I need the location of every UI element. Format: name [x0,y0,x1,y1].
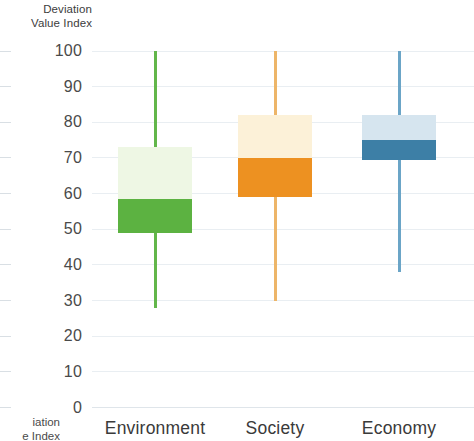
y-tick-label-90: 90 [36,79,82,95]
axis-edge-tick-10 [0,371,11,372]
y-tick-label-10: 10 [36,364,82,380]
whisker-line-economy [398,51,401,272]
y-tick-label-80: 80 [36,114,82,130]
y-tick-label-100: 100 [36,43,82,59]
axis-edge-tick-90 [0,86,11,87]
y-tick-label-30: 30 [36,293,82,309]
y-axis-title: Deviation Value Index [6,3,92,30]
box-lower-quartile-economy [362,140,436,160]
y-tick-label-70: 70 [36,150,82,166]
axis-edge-tick-40 [0,264,11,265]
y-tick-label-60: 60 [36,186,82,202]
x-category-label-economy: Economy [324,418,474,438]
y-axis-title-next-chart-cutoff: iation e Index [0,416,60,440]
box-lower-quartile-environment [118,199,192,233]
y-tick-label-20: 20 [36,328,82,344]
box-lower-quartile-society [238,158,312,197]
axis-edge-tick-60 [0,193,11,194]
box-plot-chart: Deviation Value Index 010203040506070809… [0,0,474,441]
box-upper-quartile-society [238,115,312,158]
axis-edge-tick-70 [0,157,11,158]
axis-edge-tick-80 [0,122,11,123]
axis-edge-tick-20 [0,336,11,337]
axis-edge-tick-100 [0,51,11,52]
box-upper-quartile-environment [118,147,192,199]
axis-edge-tick-30 [0,300,11,301]
y-tick-label-0: 0 [36,400,82,416]
box-upper-quartile-economy [362,115,436,140]
axis-edge-tick-50 [0,229,11,230]
axis-edge-tick-0 [0,407,11,408]
plot-area [92,0,474,441]
y-tick-label-40: 40 [36,257,82,273]
y-tick-label-50: 50 [36,221,82,237]
